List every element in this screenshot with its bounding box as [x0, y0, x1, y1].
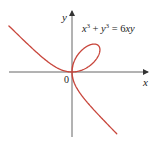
curve-equation: x3 + y3 = 6xy	[82, 23, 135, 35]
eq-equals: =	[109, 23, 120, 34]
eq-plus: +	[90, 23, 101, 34]
folium-diagram: y x 0 x3 + y3 = 6xy	[0, 0, 157, 147]
eq-rhs-y: y	[130, 23, 135, 34]
x-axis-label: x	[143, 77, 148, 88]
folium-curve	[9, 26, 117, 134]
y-axis-label: y	[62, 12, 67, 23]
origin-label: 0	[64, 75, 69, 85]
